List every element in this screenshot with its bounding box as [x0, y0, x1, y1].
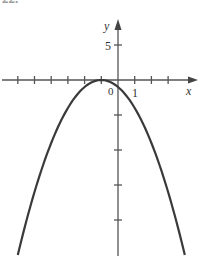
y-tick-label-5: 5 [105, 39, 111, 53]
x-tick-label-1: 1 [132, 86, 138, 100]
y-axis-arrow-icon [115, 19, 122, 30]
parabola-chart: y 5 x 0 1 [0, 0, 213, 270]
x-axis-arrow-icon [188, 77, 198, 84]
parabola-curve [18, 80, 185, 255]
x-axis-label: x [185, 84, 192, 98]
y-axis-label: y [103, 19, 110, 33]
origin-label: 0 [108, 85, 114, 97]
